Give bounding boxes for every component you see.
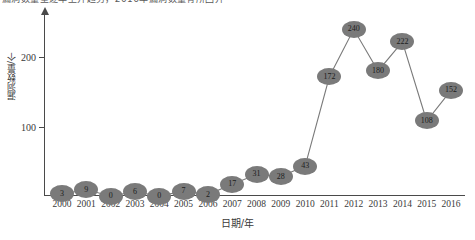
y-tick-label: 200 (21, 52, 36, 63)
x-tick-label: 2014 (393, 199, 412, 209)
x-axis-title: 日期/年 (0, 215, 475, 230)
data-point-marker[interactable]: 152 (439, 82, 463, 99)
x-tick-label: 2009 (271, 199, 290, 209)
data-point-marker[interactable]: 28 (269, 168, 293, 185)
data-point-marker[interactable]: 43 (293, 158, 317, 175)
x-tick-label: 2008 (247, 199, 266, 209)
x-tick-label: 2012 (344, 199, 363, 209)
y-axis-title: 漏洞数量/个 (6, 52, 18, 100)
data-point-marker[interactable]: 31 (245, 166, 269, 183)
data-point-marker[interactable]: 0 (99, 188, 123, 205)
x-tick-label: 2007 (223, 199, 242, 209)
x-tick-label: 2005 (174, 199, 193, 209)
data-point-marker[interactable]: 240 (342, 21, 366, 38)
data-point-marker[interactable]: 0 (147, 188, 171, 205)
x-tick-label: 2001 (77, 199, 96, 209)
x-tick-label: 2015 (417, 199, 436, 209)
x-tick-label: 2016 (442, 199, 461, 209)
data-point-marker[interactable]: 2 (196, 186, 220, 203)
y-tick-label: 100 (21, 121, 36, 132)
x-tick-label: 2011 (320, 199, 339, 209)
plot-area: 100200 200020012002200320042005200620072… (44, 14, 465, 196)
vulnerability-count-line-chart: 漏洞数量/个 100200 20002001200220032004200520… (0, 0, 475, 240)
x-tick-label: 2003 (125, 199, 144, 209)
x-tick-label: 2010 (296, 199, 315, 209)
x-tick-label: 2013 (369, 199, 388, 209)
data-point-marker[interactable]: 7 (172, 183, 196, 200)
data-point-marker[interactable]: 6 (123, 183, 147, 200)
data-point-marker[interactable]: 17 (220, 176, 244, 193)
